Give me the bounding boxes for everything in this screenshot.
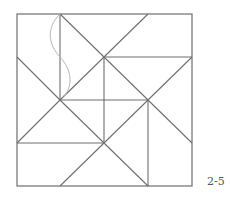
tangram-diagram [0,0,230,206]
figure-label: 2-5 [207,175,225,188]
fold-line [60,14,104,57]
fold-line [17,100,60,143]
fold-line [148,100,192,143]
fold-lines [17,14,192,186]
fold-line [104,57,148,100]
fold-line [104,14,148,57]
fold-line [148,57,192,100]
fold-line [60,143,104,186]
fold-line [104,143,148,186]
fold-line [17,57,60,100]
fold-line [60,100,104,143]
fold-line [104,100,148,143]
